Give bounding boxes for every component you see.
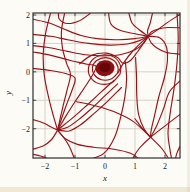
y-tick-label: −1	[21, 96, 30, 105]
page-edge-shadow-bottom	[0, 187, 190, 192]
spiral-sink-core	[99, 63, 110, 72]
y-axis-label: y	[3, 91, 13, 96]
x-tick-label: 2	[163, 162, 167, 171]
x-axis-label: x	[102, 173, 107, 183]
page-edge-shadow-right	[187, 0, 190, 192]
y-tick-label: 2	[26, 11, 30, 20]
x-tick-label: −2	[41, 162, 50, 171]
y-tick-label: 1	[26, 39, 30, 48]
streamline	[148, 27, 180, 36]
streamline-layer	[33, 14, 180, 159]
streamline	[58, 130, 139, 158]
y-tick-label: 0	[26, 68, 30, 77]
streamline	[109, 14, 149, 37]
phase-portrait-svg: −2−1012−2−1012 x y	[0, 0, 190, 192]
x-tick-label: 1	[133, 162, 137, 171]
x-tick-label: 0	[103, 162, 107, 171]
streamline	[33, 52, 96, 130]
x-tick-label: −1	[71, 162, 80, 171]
streamline	[148, 14, 180, 36]
streamline	[133, 115, 180, 159]
streamline	[148, 36, 180, 54]
grid-layer	[33, 13, 180, 158]
streamline	[176, 146, 181, 158]
streamline	[58, 87, 122, 131]
plot-frame	[33, 13, 180, 158]
streamline	[168, 14, 178, 159]
phase-portrait-figure: −2−1012−2−1012 x y	[0, 0, 190, 192]
frame-layer	[33, 13, 180, 158]
streamline	[58, 130, 75, 158]
y-tick-label: −2	[21, 125, 30, 134]
